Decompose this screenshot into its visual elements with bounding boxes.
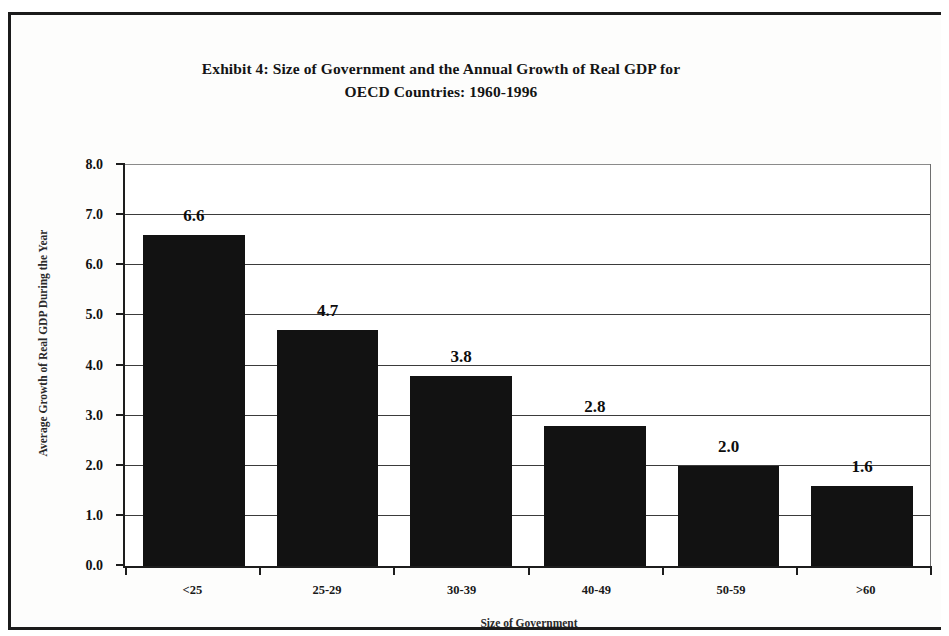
- x-axis-tick: [125, 566, 127, 575]
- bar-value-label: 1.6: [852, 457, 873, 477]
- y-axis-tick-label: 5.0: [86, 307, 104, 323]
- x-axis-tick-label: >60: [798, 583, 933, 598]
- x-axis-tick-label: 50-59: [664, 583, 799, 598]
- x-axis-tick: [796, 566, 798, 575]
- y-axis-title: Average Growth of Real GDP During the Ye…: [37, 193, 49, 493]
- y-axis-tick-label: 1.0: [86, 508, 104, 524]
- y-axis-tick-label: 2.0: [86, 458, 104, 474]
- y-axis-tick: 6.0: [116, 263, 125, 265]
- bar[interactable]: 2.8: [544, 426, 646, 566]
- y-axis-tick-label: 3.0: [86, 408, 104, 424]
- bar-slot: 6.6: [127, 165, 261, 566]
- x-axis-tick: [930, 566, 932, 575]
- bar-slot: 3.8: [394, 165, 528, 566]
- y-axis-tick: 4.0: [116, 364, 125, 366]
- x-axis-tick-label: <25: [125, 583, 260, 598]
- y-axis-tick-label: 8.0: [86, 157, 104, 173]
- x-axis-tick-labels: <2525-2930-3940-4950-59>60: [125, 583, 933, 598]
- y-axis-tick: 3.0: [116, 414, 125, 416]
- x-axis-title: Size of Government: [125, 617, 933, 629]
- x-axis-tick: [393, 566, 395, 575]
- x-axis-tick-label: 25-29: [260, 583, 395, 598]
- bar-value-label: 2.8: [584, 397, 605, 417]
- bar-value-label: 3.8: [451, 347, 472, 367]
- bar-value-label: 2.0: [718, 437, 739, 457]
- bar[interactable]: 6.6: [143, 235, 245, 566]
- chart-axes-box: 0.01.02.03.04.05.06.07.08.0 6.64.73.82.8…: [123, 164, 931, 568]
- x-axis-tick: [662, 566, 664, 575]
- x-axis-tick-label: 40-49: [529, 583, 664, 598]
- y-axis-tick: 5.0: [116, 313, 125, 315]
- chart-title-line-2: OECD Countries: 1960-1996: [11, 80, 871, 103]
- y-axis-tick-label: 0.0: [86, 558, 104, 574]
- y-axis-tick: 1.0: [116, 514, 125, 516]
- x-axis-tick: [528, 566, 530, 575]
- bar-slot: 2.0: [662, 165, 796, 566]
- bar-value-label: 4.7: [317, 301, 338, 321]
- y-axis-tick: 0.0: [116, 564, 125, 566]
- scanned-page-frame: Exhibit 4: Size of Government and the An…: [8, 12, 941, 630]
- y-axis-tick: 7.0: [116, 213, 125, 215]
- bar-slot: 4.7: [261, 165, 395, 566]
- bar-value-label: 6.6: [183, 206, 204, 226]
- y-axis-tick-label: 7.0: [86, 207, 104, 223]
- bar[interactable]: 1.6: [811, 486, 913, 566]
- chart-title-line-1: Exhibit 4: Size of Government and the An…: [202, 60, 680, 77]
- y-axis-tick-label: 6.0: [86, 257, 104, 273]
- chart-plot-region: 0.01.02.03.04.05.06.07.08.0 6.64.73.82.8…: [115, 153, 939, 573]
- bar-slot: 1.6: [795, 165, 929, 566]
- y-axis-tick: 2.0: [116, 464, 125, 466]
- y-axis-tick-label: 4.0: [86, 358, 104, 374]
- bar[interactable]: 3.8: [410, 376, 512, 566]
- bar[interactable]: 4.7: [277, 330, 379, 566]
- y-axis-tick: 8.0: [116, 163, 125, 165]
- bar[interactable]: 2.0: [678, 466, 780, 566]
- chart-title: Exhibit 4: Size of Government and the An…: [11, 57, 871, 103]
- x-axis-tick: [259, 566, 261, 575]
- bar-series: 6.64.73.82.82.01.6: [127, 165, 929, 566]
- bar-slot: 2.8: [528, 165, 662, 566]
- x-axis-tick-label: 30-39: [394, 583, 529, 598]
